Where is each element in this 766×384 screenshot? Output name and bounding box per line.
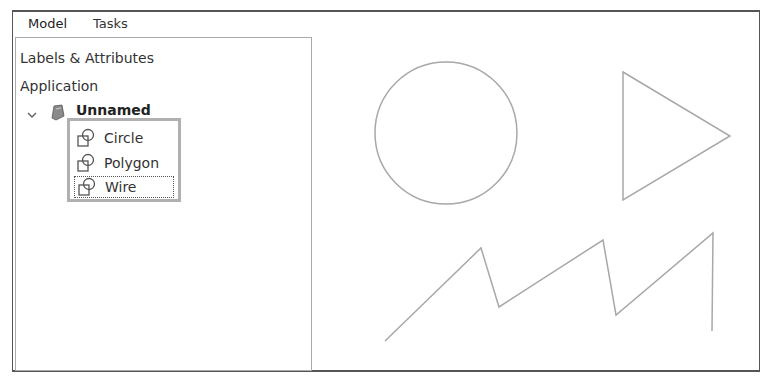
tree-item-wire[interactable]: Wire: [74, 176, 174, 198]
chevron-down-icon[interactable]: [26, 109, 38, 121]
shape-list: Circle Polygon Wire: [67, 118, 181, 202]
tab-tasks[interactable]: Tasks: [79, 14, 140, 36]
tree-item-polygon[interactable]: Polygon: [74, 152, 174, 174]
document-node-unnamed[interactable]: Unnamed: [76, 102, 151, 118]
model-tree-panel: Labels & Attributes Application Unnamed …: [15, 37, 312, 371]
shape-icon: [77, 177, 97, 197]
tree-item-label: Polygon: [104, 155, 159, 171]
tree-item-circle[interactable]: Circle: [74, 127, 174, 149]
document-icon: [50, 104, 66, 122]
shape-icon: [76, 153, 96, 173]
wire-shape[interactable]: [385, 233, 713, 341]
application-node[interactable]: Application: [20, 78, 98, 94]
tab-model[interactable]: Model: [14, 14, 79, 36]
3d-viewer[interactable]: [312, 12, 760, 370]
polygon-shape[interactable]: [623, 72, 730, 200]
tree-item-label: Circle: [104, 130, 143, 146]
tree-item-label: Wire: [105, 179, 137, 195]
circle-shape[interactable]: [375, 62, 517, 204]
labels-attributes-header: Labels & Attributes: [20, 50, 154, 66]
tab-bar: Model Tasks: [14, 14, 140, 36]
shape-icon: [76, 128, 96, 148]
